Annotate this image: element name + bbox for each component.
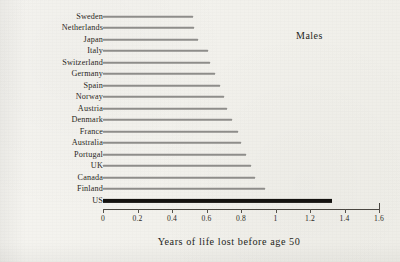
bar-sweden <box>103 15 193 17</box>
category-label-portugal: Portugal <box>74 151 103 159</box>
x-tick-0.2 <box>138 209 139 213</box>
category-label-sweden: Sweden <box>76 13 103 21</box>
bar-japan <box>103 38 198 40</box>
category-label-us: US <box>92 197 103 205</box>
category-label-denmark: Denmark <box>71 116 103 124</box>
bar-france <box>103 130 238 132</box>
bar-finland <box>103 188 265 190</box>
category-label-spain: Spain <box>84 82 103 90</box>
x-tick-1.2 <box>310 209 311 213</box>
bar-portugal <box>103 153 246 155</box>
bar-netherlands <box>103 27 194 29</box>
category-label-switzerland: Switzerland <box>62 59 103 67</box>
category-label-australia: Australia <box>72 139 103 147</box>
x-tick-0 <box>103 209 104 213</box>
category-label-germany: Germany <box>71 70 103 78</box>
x-tick-label-0.4: 0.4 <box>167 214 177 223</box>
bar-austria <box>103 107 227 109</box>
x-tick-0.8 <box>241 209 242 213</box>
bar-australia <box>103 142 241 144</box>
category-label-uk: UK <box>91 162 103 170</box>
bar-chart-plot: Males SwedenNetherlandsJapanItalySwitzer… <box>0 0 400 262</box>
x-tick-label-1.4: 1.4 <box>339 214 349 223</box>
category-label-canada: Canada <box>78 174 103 182</box>
category-label-austria: Austria <box>78 105 103 113</box>
category-label-finland: Finland <box>77 185 103 193</box>
bar-switzerland <box>103 61 210 63</box>
bar-germany <box>103 73 215 75</box>
category-label-france: France <box>80 128 103 136</box>
category-label-japan: Japan <box>84 36 103 44</box>
x-tick-label-0: 0 <box>101 214 105 223</box>
x-tick-1.6 <box>379 209 380 213</box>
x-tick-label-0.6: 0.6 <box>201 214 211 223</box>
category-label-netherlands: Netherlands <box>62 24 103 32</box>
x-tick-label-1.6: 1.6 <box>374 214 384 223</box>
x-axis-label: Years of life lost before age 50 <box>0 236 400 247</box>
bar-norway <box>103 96 224 98</box>
x-tick-0.6 <box>207 209 208 213</box>
bar-denmark <box>103 119 232 121</box>
bar-spain <box>103 84 220 86</box>
x-tick-label-0.8: 0.8 <box>236 214 246 223</box>
x-tick-label-1: 1 <box>274 214 278 223</box>
bar-canada <box>103 176 255 178</box>
x-tick-label-1.2: 1.2 <box>305 214 315 223</box>
x-tick-1.4 <box>345 209 346 213</box>
x-tick-0.4 <box>172 209 173 213</box>
category-label-norway: Norway <box>76 93 103 101</box>
series-annotation-males: Males <box>296 30 323 41</box>
category-label-italy: Italy <box>87 47 103 55</box>
figure-page: Males SwedenNetherlandsJapanItalySwitzer… <box>0 0 400 262</box>
bar-italy <box>103 50 208 52</box>
bar-uk <box>103 165 251 167</box>
x-tick-label-0.2: 0.2 <box>132 214 142 223</box>
bar-us <box>103 198 332 202</box>
x-tick-1 <box>276 209 277 213</box>
